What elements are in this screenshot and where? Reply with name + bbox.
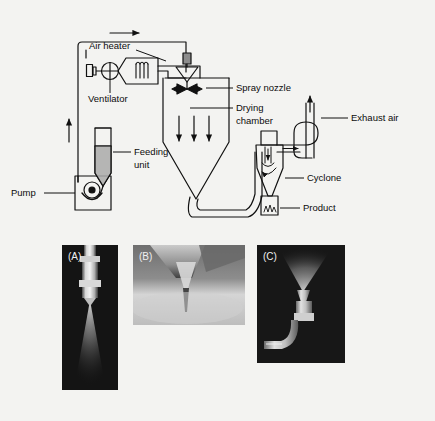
- figure-container: Air heater Ventilator Spray nozzle Dryin…: [0, 0, 435, 421]
- label-drying-chamber-line2: chamber: [236, 115, 273, 126]
- photo-c-tag: (C): [263, 251, 277, 262]
- label-air-heater: Air heater: [89, 40, 130, 51]
- photo-panel-a: (A): [62, 243, 118, 390]
- label-spray-nozzle: Spray nozzle: [236, 82, 291, 93]
- label-feeding-unit-line1: Feeding: [134, 146, 168, 157]
- photo-a-tag: (A): [68, 251, 81, 262]
- label-drying-chamber-line1: Drying: [236, 102, 263, 113]
- photo-panel-b: (B): [131, 245, 245, 325]
- label-ventilator: Ventilator: [88, 93, 128, 104]
- photo-panel-c: (C): [257, 243, 345, 363]
- schematic-svg: Air heater Ventilator Spray nozzle Dryin…: [0, 0, 435, 421]
- photo-b-tag: (B): [139, 251, 152, 262]
- label-cyclone: Cyclone: [307, 172, 341, 183]
- label-exhaust-air: Exhaust air: [351, 112, 399, 123]
- label-pump: Pump: [11, 187, 36, 198]
- label-feeding-unit-line2: unit: [134, 159, 150, 170]
- label-product: Product: [303, 202, 336, 213]
